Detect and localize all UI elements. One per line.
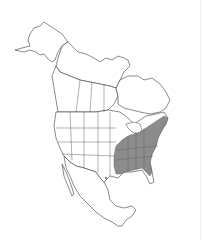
range-map (0, 0, 203, 240)
page-edge-divider (200, 0, 201, 240)
canada-east (116, 76, 170, 114)
range-outlier-dot (105, 177, 107, 179)
